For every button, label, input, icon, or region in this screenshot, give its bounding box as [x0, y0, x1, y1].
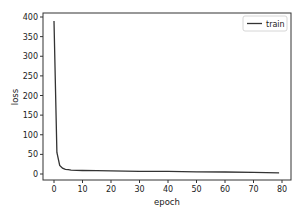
y-tick-label: 150: [23, 111, 38, 120]
y-tick-label: 350: [23, 33, 38, 42]
x-axis: 01020304050607080: [51, 180, 287, 194]
y-tick-label: 50: [28, 150, 38, 159]
train-line: [54, 21, 279, 173]
plot-frame: [43, 13, 291, 180]
x-tick-label: 20: [106, 185, 116, 194]
x-tick-label: 40: [163, 185, 173, 194]
x-tick-label: 30: [134, 185, 144, 194]
y-tick-label: 250: [23, 72, 38, 81]
x-tick-label: 10: [77, 185, 87, 194]
y-tick-label: 100: [23, 131, 38, 140]
y-axis-label: loss: [10, 88, 20, 105]
y-tick-label: 200: [23, 92, 38, 101]
y-tick-label: 300: [23, 52, 38, 61]
y-tick-label: 0: [33, 170, 38, 179]
loss-chart: 050100150200250300350400 010203040506070…: [0, 0, 302, 215]
x-tick-label: 0: [51, 185, 56, 194]
x-axis-label: epoch: [154, 197, 180, 207]
x-tick-label: 70: [248, 185, 258, 194]
y-axis: 050100150200250300350400: [23, 13, 43, 179]
legend-label-train: train: [266, 20, 285, 29]
y-tick-label: 400: [23, 13, 38, 22]
x-tick-label: 50: [191, 185, 201, 194]
x-tick-label: 80: [277, 185, 287, 194]
x-tick-label: 60: [220, 185, 230, 194]
legend: train: [243, 16, 287, 31]
